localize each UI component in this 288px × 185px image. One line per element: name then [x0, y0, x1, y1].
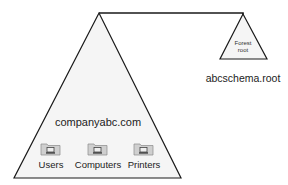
- container-label-printers: Printers: [128, 159, 161, 170]
- domain-name: companyabc.com: [55, 116, 141, 128]
- forest-label-line2: root: [234, 47, 251, 54]
- diagram-shapes: [0, 0, 288, 185]
- container-label-users: Users: [39, 159, 64, 170]
- folder-computer-icon: [87, 142, 108, 156]
- forest-root-name: abcschema.root: [206, 72, 281, 84]
- forest-label-line1: Forest: [234, 40, 251, 47]
- trust-connector-line: [99, 13, 243, 15]
- folder-computer-icon: [133, 142, 154, 156]
- forest-root-inner-label: Forest root: [234, 40, 251, 54]
- folder-computer-icon: [40, 142, 61, 156]
- container-label-computers: Computers: [75, 159, 121, 170]
- diagram-canvas: Forest root abcschema.root companyabc.co…: [0, 0, 288, 185]
